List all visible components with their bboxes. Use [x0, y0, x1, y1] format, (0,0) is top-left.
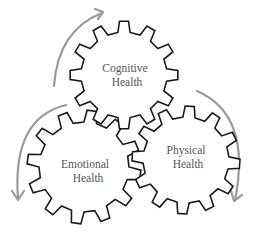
cognitive-health-label: Cognitive Health [96, 61, 154, 89]
emotional-label-line1: Emotional [54, 157, 116, 171]
gears-diagram: Cognitive Health Emotional Health Physic… [0, 0, 257, 239]
physical-health-label: Physical Health [158, 143, 214, 171]
emotional-health-label: Emotional Health [54, 157, 116, 185]
physical-label-line1: Physical [158, 143, 214, 157]
gears-canvas [0, 0, 257, 239]
physical-label-line2: Health [158, 157, 214, 171]
emotional-label-line2: Health [54, 171, 116, 185]
cognitive-label-line2: Health [96, 75, 154, 89]
cognitive-label-line1: Cognitive [96, 61, 154, 75]
